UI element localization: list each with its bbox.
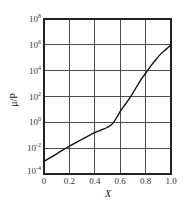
x-tick-label: 0.6 [115,176,127,186]
y-tick-label: 10-2 [27,142,41,153]
x-tick-label: 0.4 [89,176,101,186]
x-axis-tick-labels: 00.20.40.60.81.0 [42,176,177,186]
x-tick-label: 0.2 [64,176,75,186]
y-tick-label: 102 [29,91,41,102]
x-tick-label: 0.8 [140,176,152,186]
series-line [44,45,171,161]
y-axis-label: μ/P [8,93,19,107]
y-axis-tick-labels: 10810610410210010-210-4 [27,13,41,176]
y-tick-label: 104 [29,65,41,76]
y-tick-label: 106 [29,39,41,50]
data-series [44,45,171,161]
y-tick-label: 10-4 [27,165,41,176]
x-tick-label: 0 [42,176,47,186]
x-tick-label: 1.0 [165,176,177,186]
y-tick-label: 100 [29,116,41,127]
y-tick-label: 108 [29,13,41,24]
chart: 10810610410210010-210-4 00.20.40.60.81.0… [0,0,184,207]
x-axis-label: X [104,188,112,199]
